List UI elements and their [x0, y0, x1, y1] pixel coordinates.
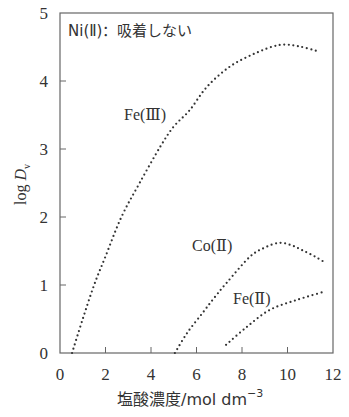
x-tick-label: 6	[192, 365, 201, 384]
x-tick-label: 4	[147, 365, 156, 384]
x-tick-label: 10	[279, 365, 296, 384]
y-tick-label: 0	[40, 344, 49, 363]
x-tick-label: 8	[238, 365, 247, 384]
x-tick-label: 0	[56, 365, 65, 384]
series-label-co2: Co(Ⅱ)	[192, 237, 232, 255]
series-group	[72, 45, 326, 353]
y-tick-label: 3	[40, 140, 49, 159]
series-label-fe2: Fe(Ⅱ)	[233, 290, 271, 308]
series-label-fe3: Fe(Ⅲ)	[124, 106, 166, 124]
x-axis-title-sup: −3	[247, 387, 263, 400]
x-axis-title-main: 塩酸濃度/mol dm	[117, 390, 247, 409]
y-tick-label: 5	[40, 4, 49, 23]
svg-text:log Dv: log Dv	[12, 164, 32, 205]
y-tick-label: 2	[40, 208, 49, 227]
x-axis-title: 塩酸濃度/mol dm−3	[117, 387, 263, 409]
annotation-ni: Ni(Ⅱ)：吸着しない	[68, 22, 192, 40]
y-axis-title: log Dv	[12, 164, 32, 205]
chart: 024681012 012345 Ni(Ⅱ)：吸着しない Fe(Ⅲ) Co(Ⅱ)…	[0, 0, 349, 417]
x-tick-label: 2	[101, 365, 110, 384]
y-axis-ticks: 012345	[40, 4, 67, 363]
y-tick-label: 4	[40, 72, 49, 91]
y-tick-label: 1	[40, 276, 49, 295]
y-axis-title-sub: v	[21, 164, 32, 169]
y-axis-title-var: D	[12, 169, 29, 182]
svg-text:塩酸濃度/mol dm−3: 塩酸濃度/mol dm−3	[117, 387, 263, 409]
plot-frame	[60, 13, 333, 353]
y-axis-title-main: log	[12, 181, 30, 205]
x-tick-label: 12	[325, 365, 342, 384]
series-line-0	[72, 45, 319, 353]
